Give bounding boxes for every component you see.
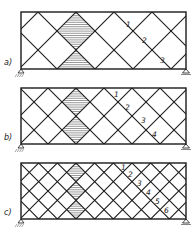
node-number: 4 [146, 188, 151, 197]
panel-b: b)1234 [0, 0, 195, 234]
node-number: 1 [121, 163, 126, 172]
panel-label: a) [4, 58, 12, 67]
diagonal-grid [0, 0, 195, 234]
roller-support-icon [181, 144, 191, 150]
hatched-region [67, 165, 86, 218]
node-number: 1 [114, 90, 119, 99]
node-number: 1 [126, 20, 131, 29]
pin-support-icon [15, 219, 24, 227]
diagonal-grid [0, 0, 195, 234]
roller-support-icon [181, 69, 191, 75]
node-number: 3 [137, 179, 142, 188]
roller-support-icon [181, 219, 191, 225]
node-number: 2 [125, 103, 130, 112]
node-number: 5 [155, 197, 160, 206]
node-number: 3 [160, 56, 165, 65]
diagonal-grid [0, 0, 195, 234]
node-number: 4 [152, 130, 157, 139]
node-number: 6 [164, 206, 169, 215]
pin-support-icon [15, 69, 24, 77]
pin-support-icon [15, 144, 24, 152]
node-number: 3 [141, 116, 146, 125]
node-number: 2 [142, 36, 147, 45]
panel-a: a)123 [0, 0, 195, 234]
node-number: 2 [128, 170, 133, 179]
panel-label: c) [4, 208, 12, 217]
lattice-diagram: a)123b)1234c)123456 [0, 0, 195, 234]
panel-c: c)123456 [0, 0, 195, 234]
panel-label: b) [4, 133, 12, 142]
